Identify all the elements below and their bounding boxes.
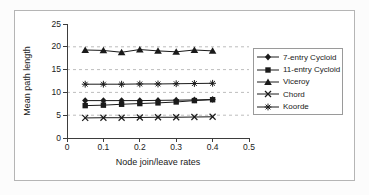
y-tick-label: 25 bbox=[21, 19, 61, 30]
y-tick-label: 15 bbox=[21, 64, 61, 75]
legend-label: Viceroy bbox=[283, 77, 310, 86]
x-marker-icon bbox=[257, 89, 281, 99]
star-marker-icon bbox=[257, 102, 281, 112]
legend-label: 7-entry Cycloid bbox=[283, 53, 336, 62]
y-tick-label: 10 bbox=[21, 87, 61, 98]
legend-item: 7-entry Cycloid bbox=[257, 51, 342, 63]
legend-item: Viceroy bbox=[257, 76, 342, 88]
x-tick-label: 0.2 bbox=[125, 142, 155, 153]
series-star bbox=[82, 80, 216, 88]
series-triangle bbox=[81, 46, 216, 55]
legend-item: 11-entry Cycloid bbox=[257, 63, 342, 75]
chart-frame: Mean path length Node join/leave rates 7… bbox=[14, 10, 355, 181]
legend: 7-entry Cycloid11-entry CycloidViceroyCh… bbox=[253, 48, 343, 115]
triangle-marker-icon bbox=[257, 77, 281, 87]
x-tick-label: 0 bbox=[52, 142, 82, 153]
square-marker-icon bbox=[257, 65, 281, 75]
legend-label: Chord bbox=[283, 90, 305, 99]
x-tick-label: 0.3 bbox=[161, 142, 191, 153]
x-tick-label: 0.5 bbox=[234, 142, 264, 153]
figure-background: { "chart_data": { "type": "line", "title… bbox=[0, 0, 369, 195]
y-tick-label: 20 bbox=[21, 41, 61, 52]
legend-item: Chord bbox=[257, 88, 342, 100]
legend-label: Koorde bbox=[283, 102, 309, 111]
x-axis-title: Node join/leave rates bbox=[67, 157, 249, 167]
x-tick-label: 0.4 bbox=[198, 142, 228, 153]
legend-label: 11-entry Cycloid bbox=[283, 65, 340, 74]
diamond-marker-icon bbox=[257, 52, 281, 62]
x-tick-label: 0.1 bbox=[88, 142, 118, 153]
y-tick-label: 5 bbox=[21, 110, 61, 121]
legend-item: Koorde bbox=[257, 101, 342, 113]
